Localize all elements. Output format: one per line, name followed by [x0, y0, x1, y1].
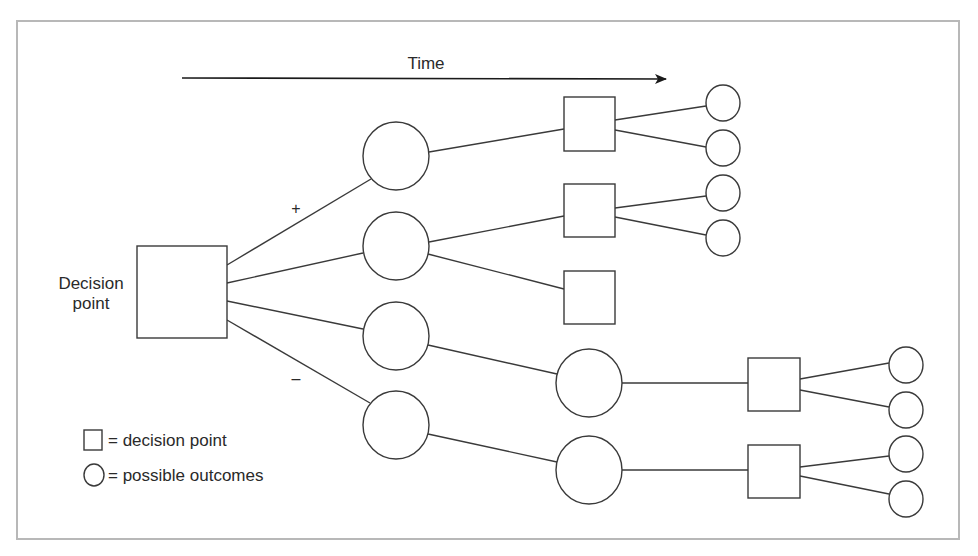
edge-root-o4 [227, 320, 370, 403]
edge-root-o1 [227, 179, 371, 265]
legend-square-text: = decision point [108, 431, 227, 450]
edge-o2-d2 [429, 216, 564, 242]
outcome-node-l4 [706, 220, 740, 256]
edge-d4-l6 [800, 390, 889, 407]
outcome-node-o1 [363, 122, 429, 190]
legend: = decision point = possible outcomes [84, 430, 263, 486]
edge-root-o3 [227, 301, 363, 329]
time-arrow-icon [182, 78, 666, 79]
time-label: Time [407, 54, 444, 73]
outcome-node-l8 [889, 481, 923, 517]
outcome-node-o5 [556, 349, 622, 417]
outcome-node-l1 [706, 85, 740, 121]
edge-root-o2 [227, 253, 363, 283]
outcome-node-l6 [889, 392, 923, 428]
outcome-node-o6 [556, 436, 622, 504]
decision-node-d1 [564, 97, 615, 151]
minus-sign: – [292, 370, 301, 387]
outcome-node-l7 [889, 436, 923, 472]
legend-circle-icon [84, 464, 104, 486]
edge-d2-l3 [615, 196, 706, 208]
edge-d5-l8 [800, 476, 889, 494]
legend-circle-text: = possible outcomes [108, 466, 263, 485]
legend-square-icon [84, 430, 102, 450]
outcome-node-l3 [706, 175, 740, 211]
root-label-line2: point [73, 294, 110, 313]
outcome-node-o3 [363, 302, 429, 370]
decision-node-d4 [748, 358, 800, 411]
decision-node-d2 [564, 184, 615, 237]
root-label: Decision point [58, 274, 123, 313]
outcome-node-o4 [363, 391, 429, 459]
edge-d1-l1 [615, 106, 706, 120]
decision-node-d3 [564, 271, 615, 324]
decision-node-d5 [748, 445, 800, 498]
nodes-group [137, 85, 923, 517]
edge-o3-o5 [428, 345, 557, 374]
plus-sign: + [291, 200, 300, 217]
edges-group [227, 106, 889, 494]
edge-d1-l2 [615, 130, 706, 147]
decision-tree-diagram: Time Decision point + – = decision point… [0, 0, 978, 556]
edge-o4-o6 [428, 434, 557, 462]
decision-node-root [137, 246, 227, 338]
edge-d2-l4 [615, 217, 706, 235]
outcome-node-o2 [363, 212, 429, 280]
outcome-node-l2 [706, 130, 740, 166]
edge-o2-d3 [428, 254, 564, 289]
root-label-line1: Decision [58, 274, 123, 293]
outcome-node-l5 [889, 347, 923, 383]
edge-d5-l7 [800, 456, 889, 467]
edge-o1-d1 [429, 129, 564, 152]
time-axis: Time [182, 54, 666, 79]
edge-d4-l5 [800, 363, 889, 379]
